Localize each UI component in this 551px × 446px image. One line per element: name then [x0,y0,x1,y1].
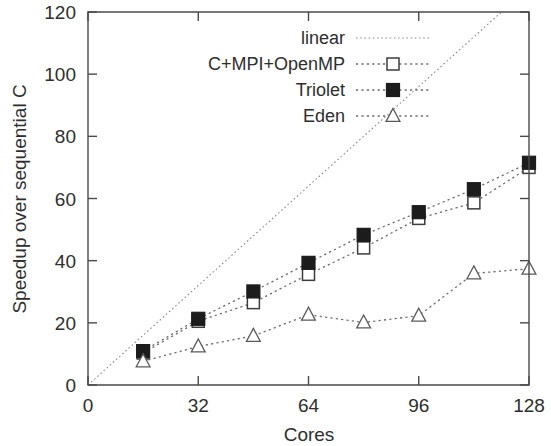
marker-filled-square [247,285,260,298]
y-tick-label: 0 [65,375,76,396]
marker-open-square [468,197,480,209]
y-tick-label: 40 [55,251,76,272]
marker-filled-square [467,183,480,196]
y-tick-label: 80 [55,126,76,147]
legend-label-eden: Eden [303,106,345,126]
x-tick-label: 32 [188,395,209,416]
y-tick-label: 120 [44,2,76,23]
x-tick-label: 64 [298,395,320,416]
marker-open-square [387,58,399,70]
marker-filled-square [357,228,370,241]
speedup-chart-figure: 020406080100120 0326496128 Speedup over … [0,0,551,446]
y-tick-label: 60 [55,189,76,210]
x-tick-label: 0 [83,395,94,416]
legend-label-c-mpi-openmp: C+MPI+OpenMP [208,54,345,74]
legend-label-linear: linear [301,28,345,48]
marker-filled-square [412,206,425,219]
chart-canvas: 020406080100120 0326496128 Speedup over … [0,0,551,446]
marker-filled-square [387,84,400,97]
marker-open-square [303,268,315,280]
y-tick-label: 100 [44,64,76,85]
marker-open-square [358,242,370,254]
x-tick-label: 96 [408,395,429,416]
x-axis-title: Cores [284,424,335,445]
y-axis-title: Speedup over sequential C [9,84,30,313]
marker-filled-square [302,256,315,269]
legend-label-triolet: Triolet [296,80,345,100]
y-tick-label: 20 [55,313,76,334]
marker-filled-square [192,312,205,325]
x-tick-label: 128 [513,395,545,416]
